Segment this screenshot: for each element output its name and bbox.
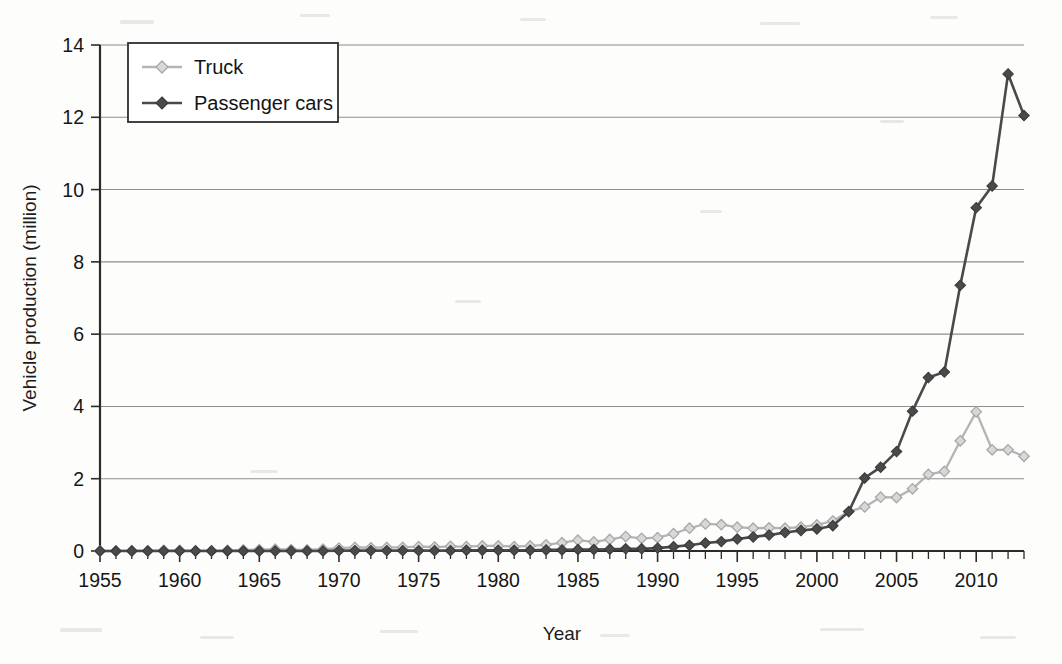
data-point-passenger-cars-1968: [302, 546, 312, 556]
x-tick-label-1960: 1960: [158, 569, 202, 591]
data-point-passenger-cars-1961: [190, 546, 200, 556]
data-point-passenger-cars-1988: [621, 544, 631, 554]
data-point-passenger-cars-1959: [159, 546, 169, 556]
data-point-truck-2005: [891, 492, 901, 502]
y-tick-label-10: 10: [62, 179, 84, 201]
x-tick-label-1955: 1955: [78, 569, 122, 591]
data-point-passenger-cars-1955: [95, 546, 105, 556]
scan-speck: [930, 16, 958, 19]
data-point-passenger-cars-2013: [1019, 110, 1029, 120]
legend-label-truck: Truck: [194, 56, 244, 78]
y-tick-label-4: 4: [73, 395, 84, 417]
data-point-passenger-cars-1997: [764, 530, 774, 540]
legend-label-cars: Passenger cars: [194, 92, 333, 114]
scan-speck: [300, 14, 330, 17]
y-tick-label-6: 6: [73, 323, 84, 345]
data-point-truck-1987: [605, 534, 615, 544]
data-point-truck-1988: [621, 531, 631, 541]
y-axis-title: Vehicle production (million): [19, 184, 40, 411]
scan-speck: [980, 636, 1016, 639]
data-point-passenger-cars-1957: [127, 546, 137, 556]
data-point-truck-1995: [732, 522, 742, 532]
data-point-truck-2012: [1003, 445, 1013, 455]
data-point-passenger-cars-1962: [206, 546, 216, 556]
x-tick-label-2010: 2010: [955, 569, 999, 591]
x-tick-label-2005: 2005: [875, 569, 919, 591]
y-tick-label-12: 12: [62, 106, 84, 128]
data-point-passenger-cars-2012: [1003, 69, 1013, 79]
y-tick-label-8: 8: [73, 251, 84, 273]
series-line-truck: [100, 412, 1024, 551]
data-point-truck-2008: [939, 466, 949, 476]
data-point-passenger-cars-1986: [589, 544, 599, 554]
data-point-passenger-cars-2007: [923, 372, 933, 382]
scan-speck: [760, 22, 800, 25]
data-point-truck-1991: [668, 528, 678, 538]
scan-speck: [120, 20, 154, 24]
data-point-truck-2010: [971, 407, 981, 417]
x-tick-label-1965: 1965: [238, 569, 282, 591]
line-chart: 0246810121419551960196519701975198019851…: [0, 0, 1062, 664]
data-point-passenger-cars-2008: [939, 367, 949, 377]
data-point-truck-2013: [1019, 451, 1029, 461]
x-tick-label-2000: 2000: [795, 569, 839, 591]
data-point-truck-2004: [875, 492, 885, 502]
data-point-passenger-cars-1964: [238, 546, 248, 556]
scan-speck: [60, 628, 102, 632]
data-point-truck-1989: [636, 533, 646, 543]
data-point-passenger-cars-1994: [716, 536, 726, 546]
x-tick-label-1975: 1975: [397, 569, 441, 591]
x-axis-title: Year: [543, 623, 582, 644]
y-tick-label-2: 2: [73, 468, 84, 490]
data-point-passenger-cars-1989: [636, 544, 646, 554]
x-tick-label-1970: 1970: [317, 569, 361, 591]
scan-speck: [520, 18, 546, 21]
series-line-passenger-cars: [100, 74, 1024, 551]
chart-figure: 0246810121419551960196519701975198019851…: [0, 0, 1062, 664]
data-point-truck-1994: [716, 519, 726, 529]
scan-speck: [600, 634, 630, 637]
data-point-passenger-cars-1984: [557, 545, 567, 555]
data-point-passenger-cars-1995: [732, 534, 742, 544]
x-tick-label-1985: 1985: [556, 569, 600, 591]
data-point-passenger-cars-1985: [573, 544, 583, 554]
data-point-passenger-cars-1987: [605, 544, 615, 554]
scan-speck: [455, 300, 481, 303]
data-point-passenger-cars-2009: [955, 280, 965, 290]
scan-speck: [700, 210, 722, 213]
scan-speck: [880, 120, 904, 123]
data-point-passenger-cars-1963: [222, 546, 232, 556]
data-point-passenger-cars-1960: [174, 546, 184, 556]
y-tick-label-14: 14: [62, 34, 84, 56]
data-point-passenger-cars-2006: [907, 406, 917, 416]
scan-speck: [250, 470, 278, 473]
data-point-truck-2003: [859, 502, 869, 512]
scan-speck: [380, 630, 418, 633]
data-point-passenger-cars-1956: [111, 546, 121, 556]
data-point-truck-2011: [987, 445, 997, 455]
x-tick-label-1980: 1980: [477, 569, 521, 591]
y-tick-label-0: 0: [73, 540, 84, 562]
data-point-truck-1992: [684, 523, 694, 533]
data-point-truck-2009: [955, 436, 965, 446]
x-tick-label-1995: 1995: [716, 569, 760, 591]
data-point-passenger-cars-1958: [143, 546, 153, 556]
data-point-truck-1990: [652, 532, 662, 542]
data-point-passenger-cars-1992: [684, 540, 694, 550]
data-point-truck-1993: [700, 519, 710, 529]
scan-speck: [200, 636, 234, 639]
scan-speck: [820, 628, 864, 631]
x-tick-label-1990: 1990: [636, 569, 680, 591]
data-point-passenger-cars-1996: [748, 532, 758, 542]
data-point-passenger-cars-1993: [700, 538, 710, 548]
